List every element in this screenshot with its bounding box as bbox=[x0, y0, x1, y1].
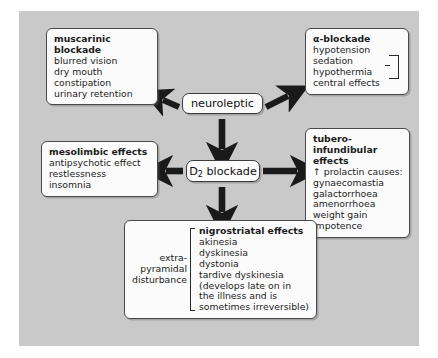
tubero-item: gynaecomastia bbox=[313, 178, 402, 189]
tubero-infundibular-box: tubero-infundibular effects ↑ prolactin … bbox=[305, 128, 410, 238]
alpha-item: central effects bbox=[313, 78, 401, 89]
extrapyramidal-bracket bbox=[190, 228, 195, 311]
nigrostriatal-list: nigrostriatal effects akinesia dyskinesi… bbox=[199, 226, 309, 313]
prolactin-line: ↑ prolactin causes: bbox=[313, 167, 402, 178]
alpha-item: hypothermia bbox=[313, 67, 401, 78]
prolactin-text: prolactin causes: bbox=[324, 166, 403, 177]
tubero-item: impotence bbox=[313, 221, 402, 232]
mesolimbic-item: insomnia bbox=[49, 180, 150, 191]
extrapyramidal-label: extra- pyramidal disturbance bbox=[132, 253, 190, 286]
alpha-bracket-tick bbox=[385, 65, 390, 66]
muscarinic-blockade-box: muscarinic blockade blurred vision dry m… bbox=[46, 28, 158, 105]
muscarinic-header: muscarinic blockade bbox=[54, 34, 150, 56]
up-arrow-icon: ↑ bbox=[313, 166, 321, 177]
alpha-blockade-box: α-blockade hypotension sedation hypother… bbox=[305, 28, 409, 95]
d2-label: D2 blockade bbox=[189, 165, 257, 178]
nigrostriatal-effects-box: extra- pyramidal disturbance nigrostriat… bbox=[124, 220, 317, 319]
d2-blockade-node: D2 blockade bbox=[186, 160, 260, 182]
muscarinic-item: constipation bbox=[54, 78, 150, 89]
nigrostriatal-item: dystonia bbox=[199, 259, 309, 270]
alpha-grouping-bracket bbox=[389, 55, 399, 79]
tubero-header-line1: tubero-infundibular bbox=[313, 134, 402, 156]
d2-subscript: 2 bbox=[198, 170, 203, 179]
muscarinic-item: urinary retention bbox=[54, 89, 150, 100]
arrow-to-muscarinic bbox=[163, 100, 179, 107]
nigrostriatal-item: tardive dyskinesia bbox=[199, 270, 309, 281]
neuroleptic-label: neuroleptic bbox=[191, 97, 254, 110]
extrapyramidal-line: disturbance bbox=[132, 275, 187, 286]
muscarinic-item: dry mouth bbox=[54, 67, 150, 78]
arrow-to-alpha-blockade bbox=[266, 96, 288, 107]
neuroleptic-node: neuroleptic bbox=[182, 93, 263, 114]
diagram-canvas: muscarinic blockade blurred vision dry m… bbox=[0, 0, 438, 358]
mesolimbic-effects-box: mesolimbic effects antipsychotic effect … bbox=[41, 141, 158, 197]
nigrostriatal-item: sometimes irreversible) bbox=[199, 302, 309, 313]
